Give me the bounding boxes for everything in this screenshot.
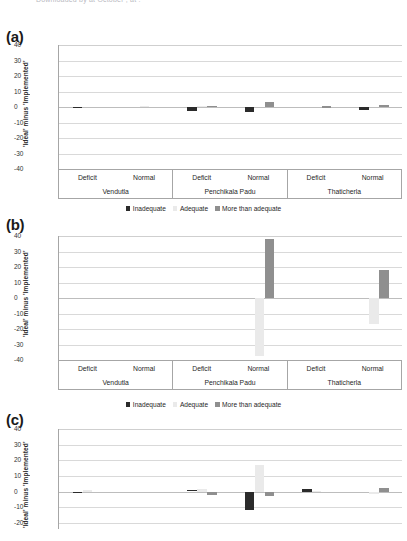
- legend-b: InadequateAdequateMore than adequate: [0, 401, 407, 408]
- y-tick-label: -20: [14, 520, 36, 527]
- panel-b-plot: [58, 236, 402, 360]
- y-tick-label: 0: [14, 488, 36, 495]
- bar: [379, 488, 388, 491]
- group-label: Thaticherla: [288, 375, 401, 389]
- panel-a-plot: [58, 45, 402, 169]
- y-tick-label: 0: [14, 104, 36, 111]
- bar: [255, 298, 264, 356]
- bar: [73, 492, 82, 493]
- y-tick-label: 10: [14, 279, 36, 286]
- y-tick-label: 10: [14, 473, 36, 480]
- y-tick-label: -30: [14, 341, 36, 348]
- legend-label: Adequate: [180, 401, 208, 408]
- panel-a-bars: [59, 45, 402, 169]
- bar: [359, 107, 368, 110]
- bar: [197, 489, 206, 492]
- bar: [245, 492, 254, 511]
- bar: [369, 298, 378, 324]
- legend-swatch-icon: [126, 402, 131, 407]
- y-tick-label: -10: [14, 119, 36, 126]
- category-group: DeficitNormalThaticherla: [287, 361, 401, 389]
- panel-a: (a) 'Ideal' minus 'Implemented' 40302010…: [0, 28, 407, 210]
- category-group: DeficitNormalPenchikala Padu: [172, 361, 286, 389]
- y-tick-label: 30: [14, 248, 36, 255]
- group-label: Vendutla: [59, 375, 172, 389]
- bar: [322, 106, 331, 107]
- bar: [73, 107, 82, 108]
- y-tick-label: -20: [14, 326, 36, 333]
- subgroup-label: Normal: [116, 365, 173, 372]
- y-tick-label: 10: [14, 88, 36, 95]
- legend-swatch-icon: [215, 402, 220, 407]
- y-tick-label: -40: [14, 166, 36, 173]
- subgroup-label: Deficit: [59, 365, 116, 372]
- y-tick-label: 40: [14, 42, 36, 49]
- y-tick-label: 30: [14, 441, 36, 448]
- subgroup-label: Normal: [344, 365, 401, 372]
- bar: [265, 492, 274, 497]
- subgroup-label: Deficit: [288, 174, 345, 181]
- bar: [197, 106, 206, 107]
- bar: [379, 105, 388, 107]
- panel-b-bars: [59, 236, 402, 360]
- category-group: DeficitNormalVendutla: [59, 170, 172, 198]
- legend-label: Inadequate: [133, 205, 166, 212]
- bar: [207, 106, 216, 107]
- group-label: Thaticherla: [288, 184, 401, 198]
- legend-item-adequate: Adequate: [173, 401, 208, 408]
- bar: [265, 239, 274, 298]
- panel-c: (c) 'Ideal' minus 'Implemented' 40302010…: [0, 411, 407, 541]
- bar: [245, 107, 254, 112]
- bar: [255, 465, 264, 492]
- legend-swatch-icon: [215, 206, 220, 211]
- bar: [187, 490, 196, 491]
- bar: [140, 106, 149, 107]
- category-group: DeficitNormalPenchikala Padu: [172, 170, 286, 198]
- y-tick-label: -10: [14, 310, 36, 317]
- panel-c-bars: [59, 429, 402, 529]
- subgroup-label: Normal: [344, 174, 401, 181]
- legend-item-more_than_adequate: More than adequate: [215, 401, 281, 408]
- bar: [312, 491, 321, 492]
- subgroup-label: Deficit: [59, 174, 116, 181]
- legend-swatch-icon: [173, 402, 178, 407]
- category-group: DeficitNormalThaticherla: [287, 170, 401, 198]
- y-tick-label: 0: [14, 295, 36, 302]
- panel-a-category-axis: DeficitNormalVendutlaDeficitNormalPenchi…: [58, 169, 402, 199]
- y-tick-label: -30: [14, 150, 36, 157]
- legend-item-more_than_adequate: More than adequate: [215, 205, 281, 212]
- bar: [207, 492, 216, 495]
- legend-swatch-icon: [126, 206, 131, 211]
- y-tick-label: 20: [14, 73, 36, 80]
- y-tick-label: 20: [14, 264, 36, 271]
- legend-a: InadequateAdequateMore than adequate: [0, 205, 407, 212]
- y-tick-label: 30: [14, 57, 36, 64]
- legend-label: Adequate: [180, 205, 208, 212]
- y-tick-label: -10: [14, 504, 36, 511]
- y-tick-label: 40: [14, 426, 36, 433]
- group-label: Vendutla: [59, 184, 172, 198]
- group-label: Penchikala Padu: [173, 184, 286, 198]
- clipped-header-text: Downloaded by at October , at :: [0, 0, 407, 12]
- y-tick-label: -20: [14, 135, 36, 142]
- bar: [265, 102, 274, 107]
- figure-root: Downloaded by at October , at : (a) 'Ide…: [0, 0, 407, 541]
- bar: [187, 107, 196, 111]
- panel-b-category-axis: DeficitNormalVendutlaDeficitNormalPenchi…: [58, 360, 402, 390]
- category-group: DeficitNormalVendutla: [59, 361, 172, 389]
- legend-label: Inadequate: [133, 401, 166, 408]
- legend-item-adequate: Adequate: [173, 205, 208, 212]
- panel-b: (b) 'Ideal' minus 'Implemented' 40302010…: [0, 216, 407, 398]
- legend-label: More than adequate: [222, 205, 281, 212]
- legend-item-inadequate: Inadequate: [126, 205, 166, 212]
- bar: [302, 489, 311, 491]
- bar: [83, 490, 92, 491]
- subgroup-label: Deficit: [173, 174, 230, 181]
- subgroup-label: Normal: [116, 174, 173, 181]
- y-tick-label: 20: [14, 457, 36, 464]
- legend-item-inadequate: Inadequate: [126, 401, 166, 408]
- y-tick-label: 40: [14, 233, 36, 240]
- subgroup-label: Deficit: [288, 365, 345, 372]
- y-tick-label: -40: [14, 357, 36, 364]
- group-label: Penchikala Padu: [173, 375, 286, 389]
